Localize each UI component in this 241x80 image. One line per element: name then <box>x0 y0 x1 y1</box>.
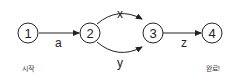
node-2: 2 <box>80 23 100 43</box>
edge-3-4: z <box>163 33 201 50</box>
edge-2-3-x: x <box>97 7 142 24</box>
node-1: 1 <box>18 23 38 43</box>
edge-label-y: y <box>117 56 123 70</box>
edge-1-2: a <box>39 33 79 50</box>
edge-label-x: x <box>117 7 123 21</box>
node-3: 3 <box>143 23 163 43</box>
edge-label-z: z <box>181 36 187 50</box>
done-caption: 완료! <box>206 65 221 73</box>
node-1-label: 1 <box>24 26 31 41</box>
start-caption: 시작 <box>22 64 35 73</box>
edge-2-3-y: y <box>97 42 142 70</box>
edge-label-a: a <box>55 36 62 50</box>
node-4-label: 4 <box>208 26 215 41</box>
node-2-label: 2 <box>86 26 93 41</box>
node-3-label: 3 <box>149 26 156 41</box>
state-diagram: a x y z 1 2 3 4 시작 완료! <box>0 0 241 80</box>
node-4: 4 <box>202 23 222 43</box>
